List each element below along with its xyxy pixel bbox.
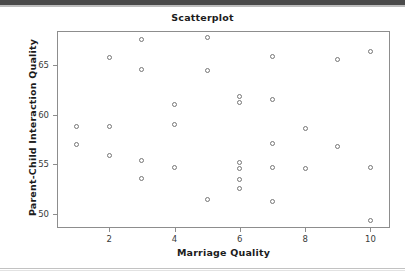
y-tick-label: 65 — [29, 60, 49, 70]
scatterplot-figure: Scatterplot Marriage Quality Parent-Chil… — [0, 7, 405, 265]
y-tick-mark — [53, 65, 57, 66]
y-tick-label: 60 — [29, 110, 49, 120]
x-tick-label: 2 — [97, 234, 121, 244]
y-axis-label: Parent-Child Interaction Quality — [27, 28, 38, 228]
y-tick-label: 55 — [29, 159, 49, 169]
x-tick-label: 6 — [228, 234, 252, 244]
x-tick-mark — [175, 228, 176, 232]
x-axis-label: Marriage Quality — [57, 247, 390, 258]
y-tick-label: 50 — [29, 209, 49, 219]
page-bottom-rule — [0, 268, 405, 269]
y-tick-mark — [53, 164, 57, 165]
x-tick-label: 10 — [358, 234, 382, 244]
page-bottom-rule-2 — [0, 270, 405, 271]
x-tick-mark — [305, 228, 306, 232]
chart-title: Scatterplot — [0, 12, 405, 23]
plot-area — [57, 31, 390, 228]
x-tick-mark — [240, 228, 241, 232]
x-tick-mark — [109, 228, 110, 232]
x-tick-mark — [370, 228, 371, 232]
x-tick-label: 4 — [163, 234, 187, 244]
y-tick-mark — [53, 214, 57, 215]
x-tick-label: 8 — [293, 234, 317, 244]
y-tick-mark — [53, 115, 57, 116]
